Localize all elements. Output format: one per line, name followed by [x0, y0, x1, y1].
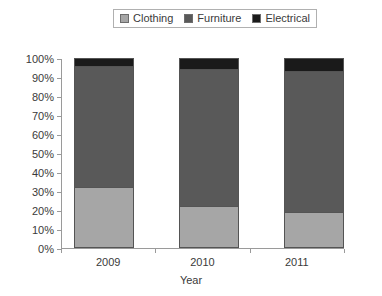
y-tick-label: 70%: [32, 110, 57, 122]
y-tick-label: 40%: [32, 167, 57, 179]
x-axis-title: Year: [0, 274, 382, 287]
y-axis: 0%10%20%30%40%50%60%70%80%90%100%: [0, 53, 61, 255]
x-tick-mark: [155, 249, 156, 253]
bar-segment-furniture-2011: [284, 71, 344, 212]
y-tick-70pct: 70%: [32, 110, 61, 122]
y-tick-20pct: 20%: [32, 205, 61, 217]
y-tick-label: 50%: [32, 148, 57, 160]
x-tick-mark: [61, 249, 62, 253]
y-tick-100pct: 100%: [26, 53, 61, 65]
legend-swatch-furniture: [184, 14, 193, 23]
bar-segment-furniture-2010: [179, 69, 239, 206]
bar-segment-clothing-2011: [284, 212, 344, 248]
legend-swatch-electrical: [252, 14, 261, 23]
y-tick-40pct: 40%: [32, 167, 61, 179]
bar-segment-electrical-2011: [284, 58, 344, 71]
y-tick-60pct: 60%: [32, 129, 61, 141]
y-tick-label: 10%: [32, 224, 57, 236]
y-tick-label: 80%: [32, 91, 57, 103]
x-tick-mark: [344, 249, 345, 253]
bar-segment-electrical-2009: [74, 58, 134, 66]
y-tick-label: 100%: [26, 53, 57, 65]
y-tick-0pct: 0%: [38, 243, 61, 255]
legend-swatch-clothing: [120, 14, 129, 23]
stacked-bar-chart: Clothing Furniture Electrical 0%10%20%30…: [0, 0, 382, 296]
legend-label-electrical: Electrical: [265, 12, 310, 24]
bar-2011: [284, 58, 344, 248]
x-tick-mark: [250, 249, 251, 253]
y-tick-label: 60%: [32, 129, 57, 141]
y-tick-label: 30%: [32, 186, 57, 198]
y-tick-label: 90%: [32, 72, 57, 84]
legend-label-clothing: Clothing: [133, 12, 173, 24]
y-tick-label: 0%: [38, 243, 57, 255]
legend-item-furniture: Furniture: [184, 12, 241, 24]
plot-area: [61, 59, 344, 249]
y-tick-30pct: 30%: [32, 186, 61, 198]
bar-2009: [74, 58, 134, 248]
chart-legend: Clothing Furniture Electrical: [113, 9, 317, 28]
legend-label-furniture: Furniture: [197, 12, 241, 24]
y-tick-10pct: 10%: [32, 224, 61, 236]
y-tick-90pct: 90%: [32, 72, 61, 84]
legend-item-clothing: Clothing: [120, 12, 173, 24]
x-tick-label-2011: 2011: [257, 256, 337, 269]
bar-segment-clothing-2009: [74, 187, 134, 248]
x-tick-label-2009: 2009: [68, 256, 148, 269]
bar-segment-furniture-2009: [74, 66, 134, 188]
y-tick-80pct: 80%: [32, 91, 61, 103]
bar-2010: [179, 58, 239, 248]
bar-segment-electrical-2010: [179, 58, 239, 69]
bar-segment-clothing-2010: [179, 206, 239, 248]
x-tick-label-2010: 2010: [163, 256, 243, 269]
legend-item-electrical: Electrical: [252, 12, 310, 24]
y-tick-50pct: 50%: [32, 148, 61, 160]
y-tick-label: 20%: [32, 205, 57, 217]
